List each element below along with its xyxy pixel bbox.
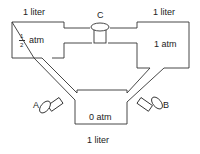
bottom-volume-label: 1 liter — [87, 136, 109, 145]
fraction-bar — [19, 40, 25, 41]
right-volume-label: 1 liter — [153, 8, 175, 17]
valve-b-label: B — [163, 101, 169, 110]
valve-c — [91, 23, 109, 43]
valve-c-label: C — [97, 11, 104, 20]
left-pressure-unit: atm — [29, 36, 44, 45]
bottom-pressure-label: 0 atm — [89, 113, 112, 122]
right-pressure-label: 1 atm — [154, 40, 177, 49]
right-tube — [127, 68, 164, 102]
left-pressure-numerator: 1 — [20, 33, 23, 39]
left-volume-label: 1 liter — [23, 8, 45, 17]
valve-a-label: A — [33, 101, 39, 110]
left-tube — [34, 58, 77, 100]
left-pressure-denominator: 2 — [20, 42, 23, 48]
valve-b — [137, 95, 165, 111]
valve-a — [37, 98, 63, 115]
gas-vessels-diagram — [0, 0, 200, 154]
